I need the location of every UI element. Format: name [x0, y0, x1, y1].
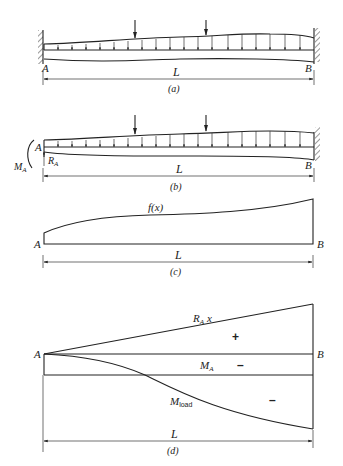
- label-a: A: [34, 141, 42, 153]
- ra-x-line: [44, 304, 313, 354]
- fixed-support-left: [38, 30, 43, 64]
- load-function-fx: [44, 199, 313, 244]
- label-b: B: [317, 348, 324, 360]
- distributed-load-envelope: [44, 34, 314, 44]
- minus-sign-mload: –: [269, 393, 276, 407]
- label-a: A: [41, 62, 49, 74]
- beam-diagram-figure: A B L (a): [0, 0, 343, 466]
- caption-d: (d): [167, 445, 179, 457]
- caption-c: (c): [170, 266, 182, 278]
- caption-b: (b): [170, 181, 182, 193]
- panel-a: A B L (a): [38, 20, 320, 95]
- panel-b: A RA MA B L (b): [13, 115, 320, 193]
- panel-d: RAx + MA – Mload – A B L (d): [33, 304, 324, 457]
- label-a: A: [33, 348, 41, 360]
- beam-deflected: [44, 152, 314, 160]
- label-b: B: [305, 159, 312, 171]
- span-label: L: [174, 248, 182, 262]
- label-ma: MA: [13, 161, 27, 174]
- label-ra-x: RAx: [192, 312, 212, 326]
- fixed-support-right: [315, 28, 320, 62]
- minus-sign-ma: –: [237, 358, 244, 372]
- span-label: L: [175, 162, 183, 176]
- label-b: B: [305, 62, 312, 74]
- moment-arc-ma: [28, 140, 34, 168]
- label-fx: f(x): [148, 201, 164, 214]
- label-ra: RA: [47, 155, 59, 168]
- label-b: B: [317, 238, 324, 250]
- mload-curve: [44, 354, 313, 429]
- label-ma: MA: [199, 359, 214, 373]
- caption-a: (a): [168, 83, 180, 95]
- beam-deflected: [44, 59, 314, 62]
- label-mload: Mload: [169, 395, 193, 408]
- span-label: L: [170, 427, 178, 441]
- plus-sign: +: [232, 330, 239, 344]
- fixed-support-right: [315, 127, 320, 161]
- distributed-load-envelope: [44, 131, 314, 140]
- span-label: L: [172, 65, 180, 79]
- panel-c: f(x) A B L (c): [33, 199, 324, 278]
- load-arrows: [58, 131, 300, 147]
- label-a: A: [33, 238, 41, 250]
